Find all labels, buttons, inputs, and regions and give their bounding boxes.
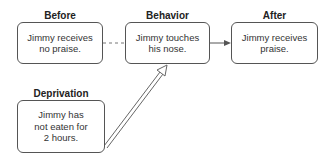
before-box: Jimmy receives no praise. [17, 22, 103, 64]
arrowhead-icon [224, 40, 231, 46]
before-title: Before [17, 10, 103, 21]
behavior-box: Jimmy touches his nose. [125, 22, 210, 64]
deprivation-title: Deprivation [17, 88, 105, 99]
after-box: Jimmy receives praise. [231, 22, 318, 64]
behavior-title: Behavior [125, 10, 210, 21]
double-line-arrow [104, 65, 167, 148]
deprivation-box: Jimmy has not eaten for 2 hours. [17, 100, 105, 153]
after-title: After [231, 10, 318, 21]
